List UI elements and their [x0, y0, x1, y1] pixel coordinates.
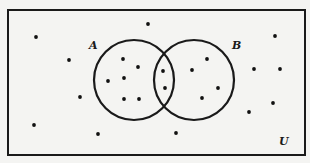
element-dot-outside [78, 95, 82, 99]
element-dot-outside [32, 123, 36, 127]
element-dot-a-only [137, 97, 141, 101]
element-dot-b-only [200, 96, 204, 100]
set-label-b: B [231, 39, 241, 52]
element-dot-b-only [190, 68, 194, 72]
element-dot-a-only [122, 76, 126, 80]
venn-diagram: AB U [0, 0, 310, 163]
universe-label: U [279, 135, 290, 148]
element-dot-outside [174, 131, 178, 135]
element-dot-a-only [122, 97, 126, 101]
element-dot-outside [96, 132, 100, 136]
element-dot-outside [278, 67, 282, 71]
element-dot-a-only [136, 65, 140, 69]
set-circle-b [154, 40, 234, 120]
set-label-a: A [88, 39, 98, 52]
element-dot-a-only [106, 79, 110, 83]
universe-frame [8, 10, 305, 155]
set-circles [94, 40, 234, 120]
element-dot-outside [247, 110, 251, 114]
element-dot-outside [273, 34, 277, 38]
element-dot-b-only [205, 57, 209, 61]
element-dot-outside [146, 22, 150, 26]
element-dot-outside [34, 35, 38, 39]
element-dot-a-only [121, 57, 125, 61]
element-dot-outside [252, 67, 256, 71]
set-circle-a [94, 40, 174, 120]
element-dot-outside [271, 101, 275, 105]
element-dot-a-and-b [161, 69, 165, 73]
element-dot-b-only [216, 86, 220, 90]
set-labels: AB [88, 39, 241, 52]
element-dot-a-and-b [163, 86, 167, 90]
element-dot-outside [67, 58, 71, 62]
elements [32, 22, 282, 136]
